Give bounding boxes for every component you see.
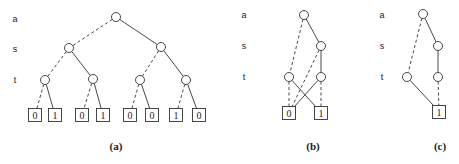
decision-node	[182, 76, 191, 85]
decision-node	[300, 11, 309, 20]
terminal-value: 1	[174, 110, 179, 121]
terminal-value: 0	[287, 108, 292, 119]
high-edge	[72, 52, 90, 76]
terminal-value: 0	[128, 110, 133, 121]
terminal-node: 1	[97, 109, 110, 122]
low-edge	[178, 84, 185, 108]
low-edge	[438, 81, 439, 105]
edges-layer	[37, 18, 439, 108]
decision-node	[419, 10, 428, 19]
diagram-a-labels: ast(a)	[12, 14, 122, 153]
decision-node	[136, 76, 145, 85]
variable-label-a: a	[379, 10, 384, 20]
high-edge	[94, 83, 101, 108]
variable-label-t: t	[14, 75, 17, 85]
decision-node	[285, 73, 294, 82]
nodes-layer: 01010010011	[29, 10, 446, 122]
variable-label-t: t	[243, 72, 246, 82]
terminal-value: 0	[197, 110, 202, 121]
terminal-node: 1	[315, 107, 328, 120]
low-edge	[408, 18, 422, 72]
low-edge	[48, 52, 67, 77]
decision-node	[403, 73, 412, 82]
low-edge	[290, 19, 303, 72]
diagram-b-labels: ast(b)	[241, 10, 320, 153]
low-edge	[292, 50, 319, 106]
diagram-b-edges	[289, 19, 321, 107]
variable-label-s: s	[380, 41, 385, 51]
terminal-value: 1	[319, 108, 324, 119]
high-edge	[410, 80, 433, 105]
low-edge	[142, 51, 158, 76]
diagram-c-edges	[408, 18, 439, 105]
high-edge	[164, 51, 184, 77]
terminal-node: 1	[170, 109, 183, 122]
terminal-node: 0	[283, 107, 296, 120]
low-edge	[132, 84, 139, 108]
decision-node	[65, 44, 74, 53]
decision-node	[434, 73, 443, 82]
variable-label-a: a	[12, 14, 17, 24]
labels-layer: ast(a)ast(b)ast(c)	[12, 10, 446, 153]
decision-node	[434, 42, 443, 51]
subfigure-caption: (b)	[306, 140, 320, 153]
variable-label-t: t	[381, 72, 384, 82]
diagram-a-edges	[37, 19, 197, 108]
terminal-value: 0	[150, 110, 155, 121]
subfigure-caption: (a)	[110, 140, 123, 153]
variable-label-a: a	[241, 10, 246, 20]
decision-node	[41, 76, 50, 85]
subfigure-caption: (c)	[434, 140, 447, 153]
terminal-node: 0	[124, 109, 137, 122]
terminal-node: 0	[146, 109, 159, 122]
high-edge	[120, 19, 158, 44]
high-edge	[295, 80, 319, 106]
terminal-node: 0	[193, 109, 206, 122]
high-edge	[188, 84, 197, 108]
high-edge	[425, 18, 436, 42]
high-edge	[141, 84, 149, 108]
decision-node	[89, 75, 98, 84]
low-edge	[37, 84, 44, 108]
terminal-value: 1	[53, 110, 58, 121]
terminal-value: 0	[80, 110, 85, 121]
terminal-node: 1	[433, 106, 446, 119]
decision-node	[157, 43, 166, 52]
terminal-value: 0	[33, 110, 38, 121]
high-edge	[292, 80, 316, 106]
bdd-diagram-canvas: 01010010011 ast(a)ast(b)ast(c)	[0, 0, 459, 164]
decision-node	[317, 73, 326, 82]
terminal-value: 1	[101, 110, 106, 121]
high-edge	[46, 84, 53, 108]
low-edge	[73, 19, 112, 45]
variable-label-s: s	[242, 41, 247, 51]
terminal-node: 0	[29, 109, 42, 122]
diagram-c-nodes: 1	[403, 10, 446, 119]
decision-node	[317, 42, 326, 51]
terminal-node: 0	[76, 109, 89, 122]
terminal-value: 1	[437, 107, 442, 118]
decision-node	[112, 13, 121, 22]
high-edge	[306, 19, 319, 42]
variable-label-s: s	[13, 44, 18, 54]
terminal-node: 1	[49, 109, 62, 122]
low-edge	[84, 83, 92, 108]
